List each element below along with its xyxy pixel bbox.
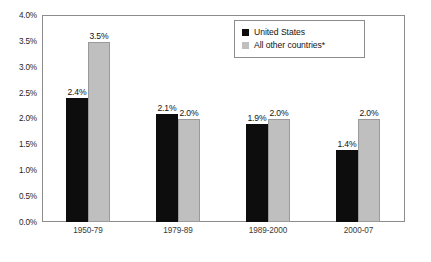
y-axis-tick-label: 4.0% <box>1 11 37 20</box>
bar-other <box>178 119 200 222</box>
legend-label: United States <box>254 27 305 38</box>
x-axis: 1950-79 1979-89 1989-2000 2000-07 <box>43 226 404 246</box>
bar-us <box>336 150 358 222</box>
bar-group: 2.4% 3.5% <box>43 16 133 222</box>
x-axis-tick-label: 2000-07 <box>313 226 404 236</box>
bar-other <box>268 119 290 222</box>
x-axis-tick-label: 1979-89 <box>133 226 223 236</box>
y-axis-tick-label: 3.0% <box>1 63 37 72</box>
legend-item-all-other-countries: All other countries* <box>242 39 358 52</box>
bar-us <box>156 114 178 222</box>
y-axis: 4.0% 3.5% 3.0% 2.5% 2.0% 1.5% 1.0% 0.5% … <box>0 0 42 262</box>
bar-value-label: 1.4% <box>324 139 370 149</box>
bar-us <box>66 98 88 222</box>
y-axis-tick-label: 1.0% <box>1 166 37 175</box>
bar-other <box>88 42 110 222</box>
bar-group: 2.1% 2.0% <box>133 16 223 222</box>
legend-swatch-icon <box>242 29 249 36</box>
y-axis-tick-label: 3.5% <box>1 37 37 46</box>
bar-value-label: 2.0% <box>256 108 302 118</box>
bar-value-label: 3.5% <box>76 31 122 41</box>
legend-label: All other countries* <box>254 40 325 51</box>
y-axis-tick-label: 2.0% <box>1 114 37 123</box>
legend-swatch-icon <box>242 42 249 49</box>
bar-value-label: 2.4% <box>54 87 100 97</box>
chart-legend: United States All other countries* <box>234 20 365 58</box>
y-axis-tick-label: 1.5% <box>1 140 37 149</box>
bar-other <box>358 119 380 222</box>
y-axis-tick-label: 0.5% <box>1 192 37 201</box>
bar-value-label: 2.0% <box>346 108 392 118</box>
bar-value-label: 2.0% <box>166 108 212 118</box>
legend-item-united-states: United States <box>242 26 358 39</box>
y-axis-tick-label: 2.5% <box>1 89 37 98</box>
y-axis-tick-label: 0.0% <box>1 218 37 227</box>
x-axis-tick-label: 1989-2000 <box>223 226 313 236</box>
x-axis-tick-label: 1950-79 <box>43 226 133 236</box>
bar-us <box>246 124 268 222</box>
bar-chart: 4.0% 3.5% 3.0% 2.5% 2.0% 1.5% 1.0% 0.5% … <box>0 0 431 262</box>
